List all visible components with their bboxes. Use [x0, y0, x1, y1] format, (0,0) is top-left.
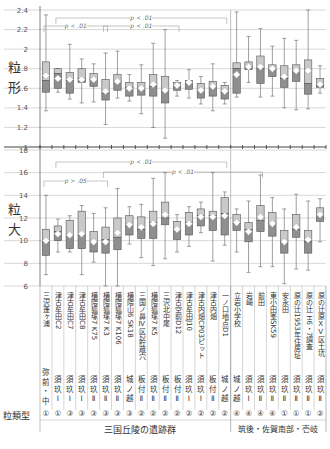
svg-text:p < .01: p < .01: [171, 168, 194, 176]
column-period: 須玖Ⅰ: [184, 375, 194, 404]
box-20: [281, 209, 288, 284]
svg-text:p < .01: p < .01: [129, 158, 152, 166]
column-site-label: 三国ノ鼻Ⅳ区2貯蔵穴: [137, 292, 146, 360]
column-grain-type: ②: [208, 409, 218, 419]
column-site-label: 原の辻原ⅩⅤ区土坑: [316, 292, 325, 357]
box-16: [233, 209, 240, 252]
box-3: [78, 206, 85, 275]
box-16: [233, 12, 240, 97]
box-13: [197, 202, 204, 233]
shape-panel: 11.21.41.61.822.22.4粒形p < .01p < .01p < …: [4, 6, 326, 152]
column-grain-type: ①: [53, 409, 63, 419]
column-period: 弥前・中: [41, 368, 51, 406]
svg-text:16: 16: [19, 169, 28, 177]
column-period: 須玖Ⅱ: [279, 375, 289, 404]
box-10: [161, 173, 168, 259]
column-site-label: 横隈山6 SK18: [125, 292, 134, 338]
column-site-label: 津古牟田C7: [65, 292, 74, 329]
box-9: [150, 178, 157, 265]
box-20: [281, 38, 288, 107]
svg-text:p > .05: p > .05: [64, 177, 87, 185]
column-site-label: 津古空前D12: [173, 292, 182, 334]
box-10: [161, 30, 168, 139]
column-site-label: 三沢蓬ヶ浦: [41, 292, 50, 327]
column-site-label: 岩崎: [244, 292, 253, 306]
box-3: [78, 59, 85, 103]
column-grain-type: ③: [124, 409, 134, 419]
box-7: [126, 207, 133, 244]
column-grain-type: ③: [65, 409, 75, 419]
column-period: 板付Ⅱ: [136, 375, 146, 404]
svg-text:8: 8: [24, 260, 28, 268]
box-18: [257, 29, 264, 98]
column-period: 城ノ越: [220, 375, 230, 404]
box-14: [209, 173, 216, 261]
row-type-label: 粒類型: [3, 409, 30, 422]
box-0: [42, 195, 49, 274]
box-21: [293, 40, 300, 109]
box-23: [316, 66, 323, 93]
column-grain-type: ②: [136, 409, 146, 419]
column-grain-type: ④: [244, 409, 254, 419]
column-grain-type: ①: [303, 409, 313, 419]
box-4: [90, 213, 97, 262]
svg-text:10: 10: [19, 237, 28, 245]
column-period: 須玖Ⅱ: [267, 375, 277, 404]
column-site-label: 前田: [256, 292, 265, 306]
box-17: [245, 36, 252, 82]
column-site-label: 安永田: [280, 292, 289, 313]
box-9: [150, 43, 157, 127]
box-2: [66, 44, 73, 99]
column-period: 須玖Ⅱ: [112, 375, 122, 404]
box-7: [126, 75, 133, 101]
column-period: 須玖Ⅱ: [255, 375, 265, 404]
box-1: [54, 69, 61, 92]
column-period: 須玖Ⅰ: [53, 375, 63, 404]
column-grain-type: ②: [220, 409, 230, 419]
column-grain-type: ②: [160, 409, 170, 419]
column-grain-type: ①: [291, 409, 301, 419]
column-period: 須玖Ⅱ: [101, 375, 111, 404]
column-site-label: 原の辻1953年住居址: [292, 292, 301, 359]
box-17: [245, 201, 252, 272]
column-site-label: 津古牟田C8: [77, 292, 86, 329]
box-8: [138, 204, 145, 257]
column-period: 須玖Ⅰ: [196, 375, 206, 404]
column-period: 須玖Ⅰ: [244, 375, 254, 404]
column-site-label: 立岩小学校: [232, 292, 241, 327]
column-site-label: 一ノ口地点D1: [220, 292, 229, 337]
box-5: [102, 208, 109, 286]
box-11: [173, 215, 180, 252]
column-grain-type: ③: [112, 409, 122, 419]
column-period: 須玖Ⅱ: [315, 375, 325, 404]
column-grain-type: ②: [184, 409, 194, 419]
svg-text:粒: 粒: [8, 60, 21, 75]
column-period: 城ノ越: [124, 375, 134, 404]
column-period: 須玖Ⅱ: [89, 375, 99, 404]
svg-text:1.2: 1.2: [17, 124, 28, 132]
svg-text:形: 形: [8, 80, 21, 95]
column-site-label: 横隈狐塚7 K75: [89, 292, 98, 340]
box-2: [66, 216, 73, 252]
box-12: [185, 70, 192, 98]
column-grain-type: ③: [89, 409, 99, 419]
column-grain-type: ④: [267, 409, 277, 419]
column-period: 板付Ⅱ: [208, 375, 218, 404]
column-grain-type: ②: [196, 409, 206, 419]
column-site-label: 津古内畑: [208, 292, 217, 320]
svg-text:p < .01: p < .01: [129, 14, 152, 22]
column-period: 城ノ越: [232, 375, 242, 404]
box-18: [257, 175, 264, 267]
column-grain-type: ①: [41, 409, 51, 419]
box-19: [269, 46, 276, 96]
box-23: [316, 199, 323, 242]
box-15: [221, 82, 228, 104]
column-site-label: 東小田峯SK59: [268, 292, 277, 338]
column-grain-type: ③: [101, 409, 111, 419]
column-grain-type: ②: [148, 409, 158, 419]
svg-text:18: 18: [19, 147, 28, 155]
column-grain-type: ③: [77, 409, 87, 419]
size-panel: 681012141618粒大p < .01p < .01p > .05: [4, 146, 326, 291]
box-4: [90, 64, 97, 102]
column-grain-type: ②: [172, 409, 182, 419]
